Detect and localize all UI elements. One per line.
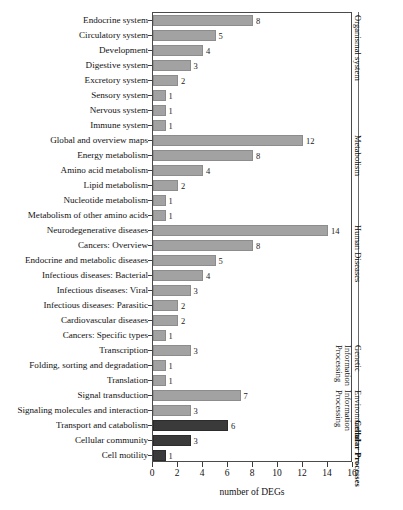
bar[interactable]	[153, 45, 203, 55]
y-axis-category-label: Development	[0, 44, 148, 56]
x-axis-tick	[227, 462, 228, 467]
bar[interactable]	[153, 420, 228, 430]
bar[interactable]	[153, 240, 253, 250]
bar[interactable]	[153, 255, 216, 265]
bar-row: 1	[153, 103, 351, 118]
bar[interactable]	[153, 345, 191, 355]
y-axis-category-label: Cancers: Overview	[0, 239, 148, 251]
bar-value-label: 3	[194, 345, 198, 358]
bar[interactable]	[153, 120, 166, 130]
bar-row: 1	[153, 448, 351, 463]
bar[interactable]	[153, 60, 191, 70]
bar-value-label: 1	[169, 450, 173, 463]
bar-row: 2	[153, 73, 351, 88]
bar-row: 2	[153, 313, 351, 328]
x-axis-tick	[327, 462, 328, 467]
y-axis-category-label: Translation	[0, 374, 148, 386]
bar-row: 3	[153, 58, 351, 73]
x-axis-tick	[302, 462, 303, 467]
y-axis-category-label: Nervous system	[0, 104, 148, 116]
y-axis-category-label: Circulatory system	[0, 29, 148, 41]
bar-row: 1	[153, 328, 351, 343]
bar-value-label: 1	[169, 195, 173, 208]
bar[interactable]	[153, 450, 166, 460]
bar-row: 12	[153, 133, 351, 148]
y-axis-category-label: Excretory system	[0, 74, 148, 86]
bar[interactable]	[153, 210, 166, 220]
bar[interactable]	[153, 285, 191, 295]
x-axis-tick	[202, 462, 203, 467]
bar-row: 8	[153, 13, 351, 28]
bar-value-label: 2	[181, 180, 185, 193]
bar[interactable]	[153, 180, 178, 190]
y-axis-category-label: Amino acid metabolism	[0, 164, 148, 176]
bar[interactable]	[153, 375, 166, 385]
bar[interactable]	[153, 135, 303, 145]
bar[interactable]	[153, 75, 178, 85]
bar[interactable]	[153, 15, 253, 25]
bar-value-label: 6	[231, 420, 235, 433]
bar-value-label: 1	[169, 330, 173, 343]
bar[interactable]	[153, 360, 166, 370]
bar[interactable]	[153, 390, 241, 400]
bar-value-label: 2	[181, 315, 185, 328]
y-axis-category-label: Endocrine system	[0, 14, 148, 26]
y-axis-category-label: Cardiovascular diseases	[0, 314, 148, 326]
bar[interactable]	[153, 315, 178, 325]
bar-row: 1	[153, 373, 351, 388]
y-axis-category-label: Metabolism of other amino acids	[0, 209, 148, 221]
y-axis-labels: Endocrine systemCirculatory systemDevelo…	[0, 12, 148, 462]
x-axis-tick	[252, 462, 253, 467]
bar-row: 3	[153, 433, 351, 448]
bar[interactable]	[153, 435, 191, 445]
y-axis-category-label: Transcription	[0, 344, 148, 356]
bar[interactable]	[153, 30, 216, 40]
bar-row: 8	[153, 148, 351, 163]
bar-row: 1	[153, 118, 351, 133]
bar[interactable]	[153, 270, 203, 280]
x-axis-tick-label: 16	[332, 468, 372, 478]
bar-row: 5	[153, 28, 351, 43]
bar-value-label: 5	[219, 30, 223, 43]
bar-value-label: 3	[194, 435, 198, 448]
bar-value-label: 3	[194, 405, 198, 418]
y-axis-category-label: Energy metabolism	[0, 149, 148, 161]
bar-row: 7	[153, 388, 351, 403]
bar[interactable]	[153, 225, 328, 235]
group-label: Genetic Information Processing	[333, 345, 362, 384]
bar[interactable]	[153, 405, 191, 415]
bar-value-label: 8	[256, 150, 260, 163]
bar-value-label: 5	[219, 255, 223, 268]
bar-value-label: 8	[256, 240, 260, 253]
y-axis-category-label: Cell motility	[0, 449, 148, 461]
chart-page: Endocrine systemCirculatory systemDevelo…	[0, 0, 403, 510]
x-axis-tick-labels: 0246810121416	[132, 468, 372, 482]
bar-row: 2	[153, 298, 351, 313]
bar-row: 1	[153, 358, 351, 373]
bar-value-label: 2	[181, 75, 185, 88]
bar-row: 5	[153, 253, 351, 268]
bar-row: 1	[153, 208, 351, 223]
bar[interactable]	[153, 150, 253, 160]
y-axis-category-label: Neurodegenerative diseases	[0, 224, 148, 236]
y-axis-category-label: Folding, sorting and degradation	[0, 359, 148, 371]
y-axis-category-label: Nucleotide metabolism	[0, 194, 148, 206]
y-axis-category-label: Immune system	[0, 119, 148, 131]
bar[interactable]	[153, 105, 166, 115]
bar-value-label: 12	[306, 135, 315, 148]
x-axis-tick	[177, 462, 178, 467]
bar[interactable]	[153, 165, 203, 175]
group-label: Environmental Information Processing	[333, 390, 362, 414]
bar-row: 4	[153, 268, 351, 283]
bar[interactable]	[153, 330, 166, 340]
x-axis-tick	[277, 462, 278, 467]
bar[interactable]	[153, 90, 166, 100]
group-brackets: Organismal systemMetabolismHuman Disease…	[358, 12, 403, 462]
bar[interactable]	[153, 300, 178, 310]
bar-row: 4	[153, 43, 351, 58]
bar-row: 6	[153, 418, 351, 433]
y-axis-category-label: Infectious diseases: Parasitic	[0, 299, 148, 311]
y-axis-category-label: Infectious diseases: Bacterial	[0, 269, 148, 281]
y-axis-category-label: Signal transduction	[0, 389, 148, 401]
bar[interactable]	[153, 195, 166, 205]
